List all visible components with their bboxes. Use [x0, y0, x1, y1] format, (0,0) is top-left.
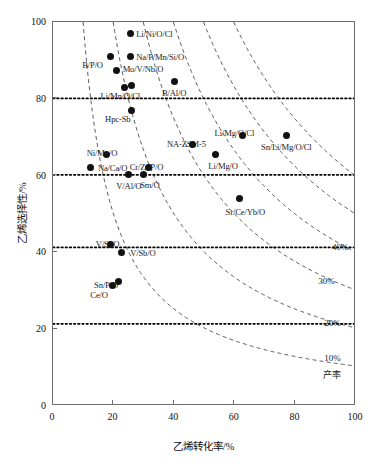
y-tick-mark [52, 97, 57, 98]
data-point[interactable] [236, 195, 243, 202]
plot-area: Li/Ni/O/ClB/P/ONa/P/Mn/Si/OMo/V/Nb/OLi/M… [52, 21, 355, 405]
x-axis-title: 乙烯转化率/% [173, 438, 235, 453]
data-point-label: Li/Mg/O/Cl [215, 129, 255, 138]
data-point-label: V/Si/O [96, 239, 119, 248]
data-point-label: Sm/O [140, 181, 159, 190]
yield-curve [143, 22, 354, 289]
data-point[interactable] [283, 132, 290, 139]
data-point-label: Li/Mn/O/Cl [100, 92, 140, 101]
data-point[interactable] [171, 78, 178, 85]
data-point-label: Cr/Zr/P/O [130, 163, 164, 172]
data-point[interactable] [127, 30, 134, 37]
data-point-label: Ce/O [90, 291, 108, 300]
x-tick-mark [233, 400, 234, 405]
y-tick-label: 100 [31, 16, 46, 27]
y-tick-mark [52, 174, 57, 175]
data-point-label: Na/Ca/O [98, 164, 128, 173]
data-point-label: Sn/Li/Mg/O/Cl [261, 143, 312, 152]
data-point-label: V/Al/O [116, 182, 141, 191]
y-tick-mark [52, 251, 57, 252]
x-tick-label: 100 [348, 411, 363, 422]
data-point[interactable] [118, 249, 125, 256]
data-point[interactable] [121, 84, 128, 91]
data-point-label: Mo/V/Nb/O [123, 65, 164, 74]
x-tick-label: 80 [289, 411, 299, 422]
y-axis-title: 乙烯选择性/% [14, 182, 29, 244]
chart-figure: Li/Ni/O/ClB/P/ONa/P/Mn/Si/OMo/V/Nb/OLi/M… [0, 0, 379, 474]
data-point-label: Li/Ni/O/Cl [136, 29, 172, 38]
yield-curve-label: 10% [324, 353, 341, 363]
data-point-label: Hpc-Sb [105, 115, 130, 124]
data-point-label: Li/Mg/O [208, 162, 238, 171]
x-tick-label: 20 [108, 411, 118, 422]
data-point-label: NA-ZSM-5 [167, 140, 206, 149]
data-point-label: Na/P/Mn/Si/O [136, 52, 184, 61]
yield-curve [204, 22, 355, 213]
x-tick-mark [173, 400, 174, 405]
data-point-label: Ni/Mo/O [87, 149, 117, 158]
data-point-label: Sn/P/O [94, 281, 118, 290]
x-tick-mark [112, 400, 113, 405]
yield-curve-label: 30% [318, 276, 335, 286]
y-tick-mark [52, 328, 57, 329]
yield-curve-label: 40% [332, 241, 349, 251]
plot-curves-layer [53, 22, 354, 404]
data-point-label: Sr/Ce/Yb/O [226, 207, 266, 216]
y-tick-label: 40 [36, 246, 46, 257]
data-point-label: V/Sb/O [130, 249, 155, 258]
data-point-label: B/Al/O [162, 88, 186, 97]
yield-curve [173, 22, 354, 251]
data-point[interactable] [212, 151, 219, 158]
y-tick-label: 0 [41, 400, 46, 411]
y-tick-label: 80 [36, 92, 46, 103]
y-tick-label: 20 [36, 323, 46, 334]
y-tick-label: 60 [36, 169, 46, 180]
yield-note-label: 产率 [323, 369, 341, 379]
yield-curve-label: 20% [324, 318, 341, 328]
data-point[interactable] [113, 67, 120, 74]
data-point[interactable] [127, 53, 134, 60]
x-tick-label: 60 [229, 411, 239, 422]
data-point-label: B/P/O [82, 60, 103, 69]
x-tick-mark [294, 400, 295, 405]
x-tick-label: 0 [50, 411, 55, 422]
x-tick-label: 40 [168, 411, 178, 422]
